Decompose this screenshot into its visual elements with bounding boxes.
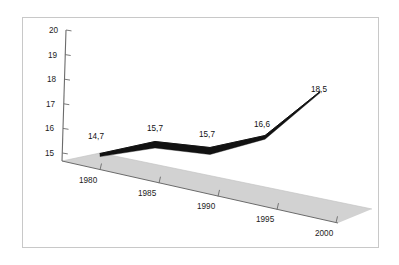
y-tick-16 — [63, 128, 69, 129]
three-d-line-chart: 20 19 18 17 16 15 1980 1985 1990 1995 20… — [0, 0, 399, 265]
y-tick-label-16: 16 — [45, 124, 55, 133]
data-series-ribbon — [100, 92, 320, 157]
data-label-1990: 15,7 — [199, 130, 215, 139]
x-tick-label-1990: 1990 — [197, 202, 216, 211]
y-tick-19 — [65, 55, 71, 56]
data-label-1980: 14,7 — [88, 132, 104, 141]
x-tick-label-1985: 1985 — [138, 189, 157, 198]
y-tick-label-19: 19 — [48, 51, 58, 60]
y-tick-17 — [64, 104, 70, 105]
y-tick-label-15: 15 — [45, 149, 55, 158]
x-tick-label-2000: 2000 — [315, 229, 334, 238]
y-tick-label-17: 17 — [46, 100, 56, 109]
data-series-line — [100, 92, 320, 154]
data-label-2000: 18,5 — [311, 85, 327, 94]
y-tick-label-18: 18 — [47, 75, 57, 84]
chart-container: 20 19 18 17 16 15 1980 1985 1990 1995 20… — [0, 0, 399, 265]
x-tick-label-1995: 1995 — [256, 215, 275, 224]
data-label-1985: 15,7 — [147, 124, 163, 133]
data-label-1995: 16,6 — [254, 120, 270, 129]
y-axis-line — [62, 30, 66, 161]
y-tick-15 — [62, 153, 68, 154]
y-tick-18 — [65, 79, 71, 80]
y-tick-label-20: 20 — [49, 26, 59, 35]
x-axis-line — [62, 161, 338, 223]
x-tick-label-1980: 1980 — [79, 176, 98, 185]
y-tick-20 — [66, 30, 72, 31]
floor-plane — [62, 153, 372, 223]
